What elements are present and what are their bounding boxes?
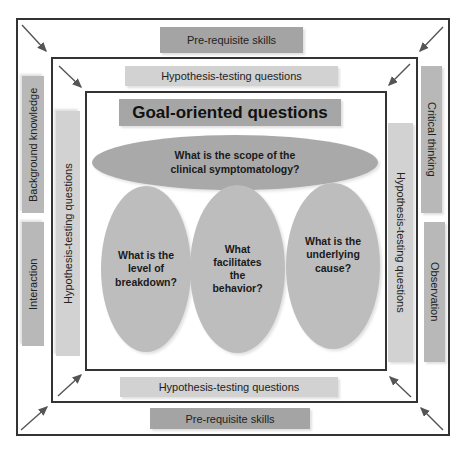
arrow-bottom-right-inner — [390, 377, 411, 397]
arrow-bottom-right-outer — [421, 408, 443, 430]
corner-arrows — [0, 0, 463, 450]
arrow-top-left-outer — [22, 25, 46, 51]
arrow-bottom-left-outer — [21, 407, 47, 430]
arrow-top-right-outer — [420, 27, 443, 51]
arrow-top-right-inner — [389, 64, 410, 85]
arrow-bottom-left-inner — [58, 375, 81, 396]
arrow-top-left-inner — [59, 66, 81, 87]
